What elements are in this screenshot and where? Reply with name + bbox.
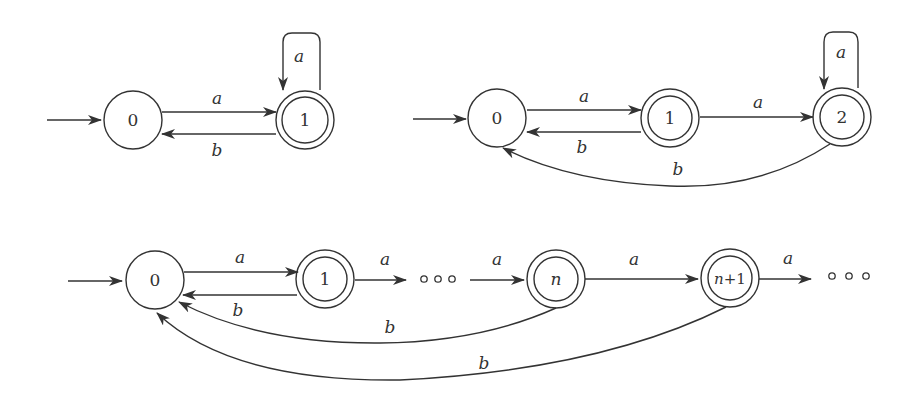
state-0-label: 0 bbox=[150, 270, 161, 290]
edge-1-ellipsis-label: a bbox=[380, 249, 390, 269]
edge-0-1-label: a bbox=[235, 247, 245, 267]
state-n1-label: n+1 bbox=[714, 270, 746, 288]
edge-2-0 bbox=[503, 144, 830, 186]
edge-1-1-label: a bbox=[294, 46, 304, 66]
edge-2-2-label: a bbox=[836, 42, 846, 62]
edge-1-2-label: a bbox=[753, 92, 763, 112]
state-0-label: 0 bbox=[128, 110, 139, 130]
automaton-infinite: 0 1 a b a a n a n+1 a bbox=[68, 247, 869, 380]
automaton-1: 0 1 a b a bbox=[47, 33, 334, 160]
ellipsis-1 bbox=[421, 276, 455, 282]
state-n-label: n bbox=[551, 269, 562, 289]
automaton-2: 0 1 2 a b a a b bbox=[413, 32, 871, 186]
ellipsis-2 bbox=[829, 273, 869, 279]
edge-n1-ellipsis-label: a bbox=[783, 248, 793, 268]
edge-n1-0-label: b bbox=[479, 353, 490, 373]
state-2-label: 2 bbox=[837, 107, 848, 127]
state-0-label: 0 bbox=[492, 108, 503, 128]
edge-0-1-label: a bbox=[579, 86, 589, 106]
state-1-label: 1 bbox=[300, 110, 311, 130]
edge-1-0-label: b bbox=[212, 140, 223, 160]
edge-n-0-label: b bbox=[385, 317, 396, 337]
automata-diagram: 0 1 a b a 0 1 2 a b a a b 0 bbox=[0, 0, 918, 395]
state-1-label: 1 bbox=[665, 108, 676, 128]
edge-ellipsis-n-label: a bbox=[492, 249, 502, 269]
edge-1-0-label: b bbox=[577, 137, 588, 157]
edge-n-n1-label: a bbox=[629, 249, 639, 269]
edge-2-0-label: b bbox=[673, 159, 684, 179]
edge-1-0-label: b bbox=[233, 300, 244, 320]
edge-0-1-label: a bbox=[212, 88, 222, 108]
state-1-label: 1 bbox=[320, 269, 331, 289]
